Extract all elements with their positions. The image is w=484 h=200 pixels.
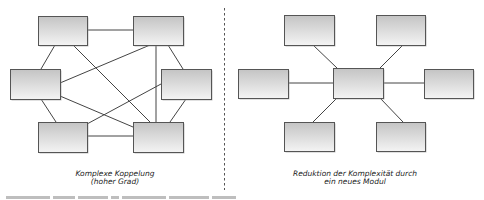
right-module-l <box>239 70 289 99</box>
left-module-bl <box>39 123 88 153</box>
left-connection-9 <box>170 99 186 122</box>
right-module-tl <box>285 16 335 46</box>
right-module-tr <box>377 16 426 46</box>
right-connection-1 <box>380 45 403 68</box>
left-module-br <box>134 123 184 153</box>
right-connection-4 <box>313 98 337 122</box>
left-connection-8 <box>87 84 161 124</box>
right-module-r <box>425 70 474 99</box>
left-caption-line2: (hoher Grad) <box>60 178 170 186</box>
right-diagram-caption: Reduktion der Komplexität durch ein neue… <box>280 170 430 186</box>
cropped-figure-caption <box>6 196 326 200</box>
right-connection-5 <box>380 98 403 122</box>
right-module-center <box>334 69 384 99</box>
right-module-br <box>377 123 426 152</box>
left-connection-6 <box>41 99 56 122</box>
left-connection-1 <box>41 45 55 69</box>
right-diagram-modules <box>239 16 475 153</box>
left-diagram-modules <box>11 17 213 154</box>
right-connection-0 <box>313 45 337 68</box>
right-caption-line2: ein neues Modul <box>280 178 430 186</box>
left-connection-5 <box>168 45 183 69</box>
left-module-tr <box>134 17 184 46</box>
left-diagram-caption: Komplexe Koppelung (hoher Grad) <box>60 170 170 186</box>
left-module-mr <box>162 70 212 100</box>
left-module-tl <box>39 17 88 46</box>
right-module-bl <box>285 123 335 152</box>
left-module-ml <box>11 70 61 100</box>
